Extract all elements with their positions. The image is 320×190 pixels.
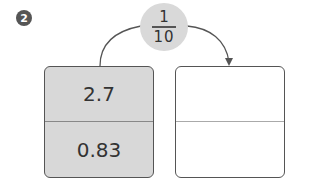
- fraction-denominator: 10: [153, 29, 174, 45]
- fraction-numerator: 1: [159, 9, 169, 25]
- answer-top-cell[interactable]: [176, 67, 284, 122]
- input-bottom-cell: 0.83: [45, 122, 153, 177]
- fraction-operator: 1 10: [140, 3, 188, 51]
- input-top-cell: 2.7: [45, 67, 153, 122]
- input-box: 2.7 0.83: [44, 66, 154, 178]
- arrow-head-icon: [225, 58, 233, 66]
- answer-box[interactable]: [175, 66, 285, 178]
- answer-bottom-cell[interactable]: [176, 122, 284, 177]
